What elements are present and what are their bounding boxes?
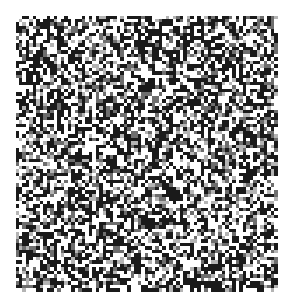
noise-pattern: [16, 16, 278, 292]
